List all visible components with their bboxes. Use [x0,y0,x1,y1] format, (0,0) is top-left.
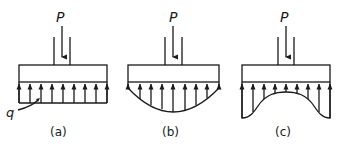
pressure-arrows [242,84,330,118]
pressure-label-q: q [6,105,14,120]
pressure-arrows [19,84,107,103]
footing [242,65,330,82]
pressure-arrows [128,84,219,112]
q-leader-arrow-icon [18,100,38,110]
panel-a [18,26,107,110]
caption-b: (b) [162,125,179,139]
caption-c: (c) [275,125,291,139]
footing-pressure-diagram: P q (a) P (b) [0,0,344,146]
footing [128,65,219,82]
caption-a: (a) [50,125,67,139]
panel-c [242,26,330,118]
footing [19,65,107,82]
load-label-a: P [56,9,65,25]
load-label-c: P [280,9,289,25]
load-label-b: P [169,9,178,25]
panel-b [128,26,219,112]
